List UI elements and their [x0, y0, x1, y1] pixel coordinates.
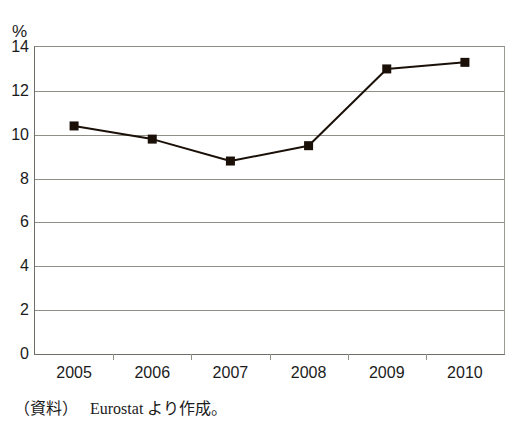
y-axis-tick-label: 6 [20, 214, 29, 230]
data-point-marker [148, 135, 157, 144]
data-point-marker [226, 157, 235, 166]
x-axis-tick-mark [113, 354, 114, 360]
data-point-marker [460, 58, 469, 67]
line-series [35, 47, 504, 354]
x-axis-tick-label: 2007 [213, 364, 249, 382]
y-axis-tick-label: 0 [20, 346, 29, 362]
source-note-label: （資料） [14, 400, 78, 417]
x-axis-tick-mark [270, 354, 271, 360]
x-axis-tick-label: 2009 [369, 364, 405, 382]
source-note-text: Eurostat より作成。 [90, 400, 227, 417]
series-line [74, 62, 465, 161]
y-axis-tick-label: 10 [11, 127, 29, 143]
source-note: （資料）Eurostat より作成。 [14, 398, 227, 420]
x-axis-tick-label: 2006 [134, 364, 170, 382]
y-axis-tick-label: 12 [11, 83, 29, 99]
data-point-marker [304, 141, 313, 150]
y-axis-tick-label: 4 [20, 258, 29, 274]
data-point-marker [70, 121, 79, 130]
x-axis-tick-label: 2008 [291, 364, 327, 382]
plot-area: 02468101214200520062007200820092010 [34, 46, 505, 355]
y-axis-tick-label: 2 [20, 302, 29, 318]
x-axis-tick-mark [348, 354, 349, 360]
x-axis-tick-label: 2010 [447, 364, 483, 382]
chart-figure: % 02468101214200520062007200820092010 （資… [0, 0, 516, 427]
y-axis-tick-label: 14 [11, 39, 29, 55]
data-point-marker [382, 64, 391, 73]
x-axis-tick-mark [191, 354, 192, 360]
x-axis-tick-mark [426, 354, 427, 360]
x-axis-tick-label: 2005 [56, 364, 92, 382]
y-axis-tick-label: 8 [20, 171, 29, 187]
